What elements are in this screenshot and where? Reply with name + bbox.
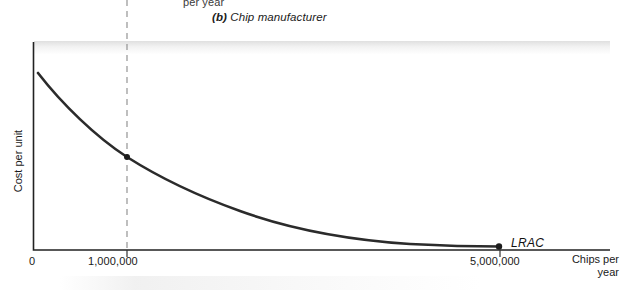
y-axis-title: Cost per unit	[12, 106, 24, 216]
figure-chip-manufacturer-lrac: per year (b) Chip manufacturer 0 1,000,0…	[0, 0, 623, 298]
x-axis-title: Chips per year	[553, 253, 619, 279]
plot-area	[0, 0, 623, 298]
output-point-1000000	[124, 154, 130, 160]
lrac-curve-label: LRAC	[511, 236, 544, 250]
x-tick-label-5000000: 5,000,000	[470, 255, 520, 267]
x-tick-label-0: 0	[29, 255, 35, 267]
x-tick-label-1000000: 1,000,000	[88, 255, 138, 267]
lrac-curve	[38, 73, 499, 247]
axis-lines	[34, 42, 611, 250]
lrac-endpoint-5000000	[496, 243, 502, 249]
